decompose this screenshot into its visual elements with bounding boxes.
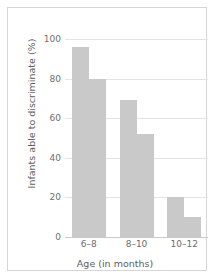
bar bbox=[137, 134, 154, 237]
plot-area bbox=[65, 39, 208, 237]
y-tick-label: 40 bbox=[31, 153, 61, 162]
y-axis-tick-labels: 020406080100 bbox=[27, 39, 61, 237]
y-tick-label: 100 bbox=[31, 35, 61, 44]
bar bbox=[184, 217, 201, 237]
y-tick-label: 0 bbox=[31, 233, 61, 242]
x-axis-baseline bbox=[65, 237, 208, 238]
x-tick-label: 10–12 bbox=[170, 240, 197, 249]
figure: Infants able to discriminate (%) 0204060… bbox=[0, 0, 214, 278]
y-tick-label: 80 bbox=[31, 74, 61, 83]
bar bbox=[120, 100, 137, 237]
x-axis-tick-labels: 6–88–1010–12 bbox=[65, 240, 208, 254]
x-tick-label: 8–10 bbox=[126, 240, 148, 249]
bar bbox=[167, 197, 184, 237]
y-tick-label: 20 bbox=[31, 193, 61, 202]
x-axis-title: Age (in months) bbox=[15, 258, 214, 269]
bar bbox=[72, 47, 89, 237]
figure-frame: Infants able to discriminate (%) 0204060… bbox=[7, 7, 207, 271]
bar bbox=[89, 79, 106, 237]
x-tick-label: 6–8 bbox=[81, 240, 97, 249]
gridline bbox=[65, 39, 208, 40]
y-tick-label: 60 bbox=[31, 114, 61, 123]
